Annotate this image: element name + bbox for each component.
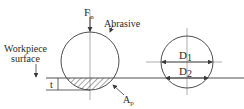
workpiece-label-line2: surface [11,53,40,64]
right-figure: D1 D2 [146,28,222,95]
d2-label: D2 [179,65,192,79]
left-figure: Fn Abrasive Workpiece surface t Ap [4,6,244,107]
depth-label: t [50,79,53,90]
abrasive-label: Abrasive [104,18,141,29]
area-label: Ap [123,94,134,107]
abrasive-indentation-diagram: Fn Abrasive Workpiece surface t Ap D1 D2 [0,0,244,109]
force-label: Fn [84,6,94,21]
d1-label: D1 [179,49,192,63]
